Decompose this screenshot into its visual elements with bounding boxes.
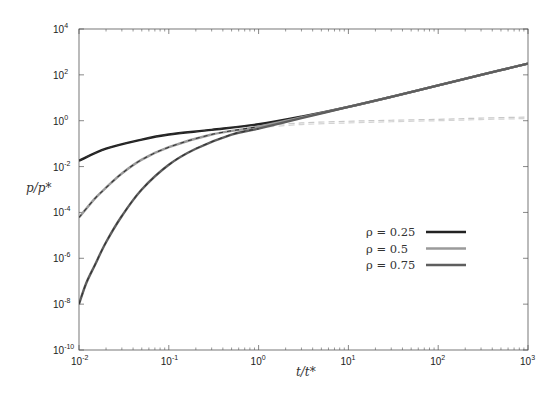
x-tick-label: 100 — [251, 354, 266, 367]
x-axis-label: t/t* — [296, 365, 316, 379]
legend: ρ = 0.25ρ = 0.5ρ = 0.75 — [366, 225, 466, 272]
x-tick-label: 10-1 — [161, 354, 178, 367]
x-tick-label: 10-2 — [71, 354, 88, 367]
y-tick-label: 10-10 — [53, 343, 74, 356]
legend-label: ρ = 0.25 — [366, 225, 415, 239]
chart: 10-210-1100101102103 10410210010-210-410… — [0, 0, 560, 393]
y-tick-label: 10-4 — [53, 205, 70, 218]
x-tick-label: 102 — [430, 354, 445, 367]
series-layer — [79, 64, 528, 305]
y-axis-ticks: 10410210010-210-410-610-810-10 — [53, 22, 528, 356]
series-line — [79, 64, 528, 305]
legend-label: ρ = 0.5 — [366, 242, 408, 256]
y-tick-label: 10-8 — [53, 297, 70, 310]
plot-frame — [79, 29, 528, 350]
minor-ticks — [106, 29, 524, 350]
y-tick-label: 10-6 — [53, 251, 70, 264]
y-tick-label: 102 — [53, 68, 68, 81]
x-tick-label: 101 — [340, 354, 355, 367]
x-tick-label: 103 — [520, 354, 535, 367]
short-time-dashed-line — [79, 129, 259, 304]
y-axis-label: p/p* — [26, 181, 51, 195]
y-tick-label: 10-2 — [53, 160, 70, 173]
series-line — [79, 64, 528, 218]
y-tick-label: 100 — [53, 114, 68, 127]
short-time-dashed-line — [79, 127, 259, 218]
legend-label: ρ = 0.75 — [366, 258, 415, 272]
series-line — [79, 64, 528, 161]
y-tick-label: 104 — [53, 22, 68, 35]
